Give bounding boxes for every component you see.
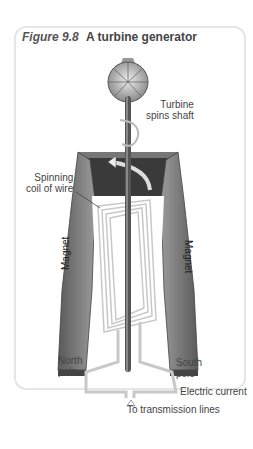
- magnet-right-label: Magnet: [183, 240, 194, 273]
- transmission-lines-label: To transmission lines: [127, 404, 220, 415]
- coil-label: Spinning coil of wire: [26, 172, 73, 194]
- magnet-left-label: Magnet: [60, 237, 71, 270]
- south-pole-label: South pole: [176, 357, 202, 379]
- electric-current-label: Electric current: [180, 386, 247, 397]
- turbine-icon: [108, 58, 148, 102]
- north-pole-label: North pole: [58, 355, 82, 377]
- turbine-generator-diagram: [0, 0, 253, 449]
- turbine-label: Turbine spins shaft: [146, 99, 194, 121]
